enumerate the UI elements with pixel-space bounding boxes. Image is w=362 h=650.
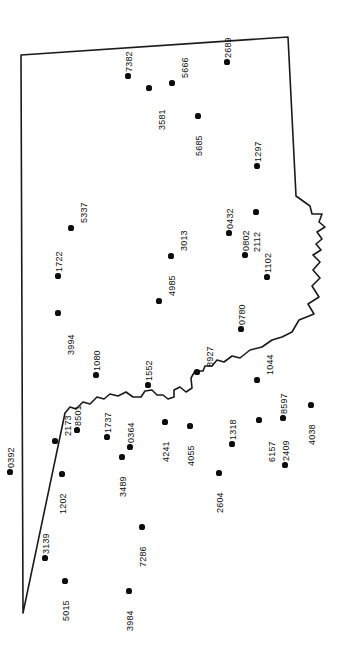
site-label: 3489	[119, 476, 128, 497]
site-label: 3581	[158, 109, 167, 130]
site-marker-dot	[195, 113, 200, 118]
site-label: 1044	[266, 354, 275, 375]
site-label: 0802	[242, 230, 251, 251]
site-marker-dot	[104, 434, 109, 439]
site-marker-dot	[308, 402, 313, 407]
site-label: 0364	[127, 422, 136, 443]
site-label: 4055	[187, 445, 196, 466]
site-marker-dot	[42, 555, 47, 560]
site-label: 3139	[42, 533, 51, 554]
site-label: 6157	[268, 441, 277, 462]
site-marker-dot	[254, 377, 259, 382]
site-marker-dot	[194, 369, 199, 374]
site-label: 1202	[59, 493, 68, 514]
site-marker-dot	[242, 252, 247, 257]
site-marker-dot	[119, 454, 124, 459]
site-marker-dot	[52, 438, 57, 443]
site-marker-dot	[238, 326, 243, 331]
site-marker-dot	[226, 230, 231, 235]
site-marker-dot	[146, 85, 151, 90]
site-marker-dot	[224, 59, 229, 64]
site-marker-dot	[280, 415, 285, 420]
site-label: 1737	[104, 412, 113, 433]
site-label: 2173	[64, 415, 73, 436]
site-label: 8597	[280, 393, 289, 414]
site-label: 7382	[125, 51, 134, 72]
site-marker-dot	[74, 427, 79, 432]
site-label: 1297	[254, 141, 263, 162]
site-label: 5015	[62, 600, 71, 621]
site-marker-dot	[169, 80, 174, 85]
site-marker-dot	[254, 163, 259, 168]
site-marker-dot	[59, 471, 64, 476]
site-marker-dot	[62, 578, 67, 583]
site-marker-dot	[145, 382, 150, 387]
site-marker-dot	[125, 73, 130, 78]
site-label: 4241	[162, 441, 171, 462]
site-marker-dot	[216, 470, 221, 475]
site-label: 8927	[206, 346, 215, 367]
site-marker-dot	[187, 423, 192, 428]
site-label: 3984	[126, 610, 135, 631]
site-marker-dot	[264, 274, 269, 279]
site-marker-dot	[168, 253, 173, 258]
site-label: 2112	[253, 232, 262, 252]
site-marker-dot	[139, 524, 144, 529]
site-marker-dot	[229, 441, 234, 446]
site-label: 2409	[282, 440, 291, 461]
site-label: 5666	[181, 57, 190, 78]
site-marker-dot	[55, 310, 60, 315]
site-label: 1722	[55, 251, 64, 272]
site-label: 1318	[229, 419, 238, 440]
site-marker-dot	[127, 444, 132, 449]
site-marker-dot	[162, 419, 167, 424]
site-marker-dot	[256, 417, 261, 422]
site-label: 2604	[216, 492, 225, 513]
site-points-layer: 7382358156662689568512975337043221120802…	[0, 0, 362, 650]
site-label: 5337	[80, 202, 89, 223]
map-figure: 7382358156662689568512975337043221120802…	[0, 0, 362, 650]
site-label: 2689	[224, 37, 233, 58]
site-label: 8501	[74, 405, 83, 426]
site-label: 3994	[67, 334, 76, 355]
site-marker-dot	[55, 273, 60, 278]
site-marker-dot	[126, 588, 131, 593]
site-marker-dot	[93, 372, 98, 377]
site-label: 4038	[308, 424, 317, 445]
site-label: 0780	[238, 304, 247, 325]
site-label: 1102	[264, 253, 273, 273]
site-label: 0392	[7, 447, 16, 468]
site-marker-dot	[282, 462, 287, 467]
site-label: 1552	[145, 360, 154, 381]
site-marker-dot	[68, 225, 73, 230]
site-label: 1080	[93, 350, 102, 371]
site-marker-dot	[7, 469, 12, 474]
site-label: 7286	[139, 546, 148, 567]
site-label: 5685	[195, 135, 204, 156]
site-label: 3013	[180, 230, 189, 251]
site-marker-dot	[253, 209, 258, 214]
site-label: 0432	[226, 208, 235, 229]
site-label: 4985	[168, 275, 177, 296]
site-marker-dot	[156, 298, 161, 303]
